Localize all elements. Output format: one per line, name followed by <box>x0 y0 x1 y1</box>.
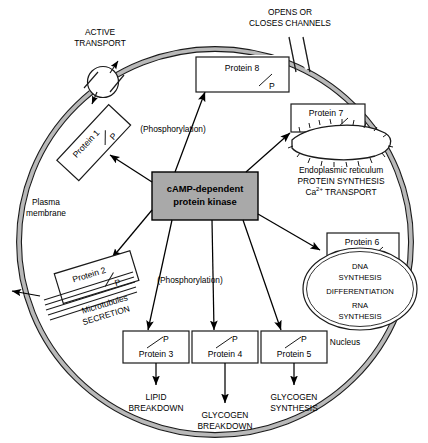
protein-3-box: Protein 3 P <box>123 331 189 363</box>
kinase-label-line1: cAMP-dependent <box>167 183 244 194</box>
protein-8-box: Protein 8 P <box>196 57 289 92</box>
nucleus-differentiation: DIFFERENTIATION <box>326 287 393 296</box>
protein-4-box: Protein 4 P <box>192 331 258 363</box>
protein-3-label: Protein 3 <box>139 349 174 359</box>
plasma-membrane-label: Plasma membrane <box>26 197 66 218</box>
er-line1: Endoplasmic reticulum <box>299 165 383 175</box>
protein-4-phosphate: P <box>232 334 238 344</box>
arrow-to-protein-2 <box>112 210 152 258</box>
plasma-membrane-line2: membrane <box>26 208 66 218</box>
nucleus-rna-line1: RNA <box>352 301 369 310</box>
er-line3: Ca2+ TRANSPORT <box>305 186 376 197</box>
er-calcium: Ca <box>305 187 316 197</box>
active-transport-label: ACTIVE TRANSPORT <box>74 27 126 48</box>
phosphorylation-label-upper: (Phosphorylation) <box>140 124 206 134</box>
arrow-to-protein-1 <box>110 155 152 182</box>
active-transport-line1: ACTIVE <box>85 27 116 37</box>
glycogen-breakdown-line1: GLYCOGEN <box>202 410 249 420</box>
active-transport-pump <box>84 61 124 104</box>
protein-7-label: Protein 7 <box>309 108 344 118</box>
protein-8-phosphate: P <box>269 81 275 91</box>
arrow-to-protein-7 <box>246 133 290 172</box>
nucleus: DNA SYNTHESIS DIFFERENTIATION RNA SYNTHE… <box>303 248 417 330</box>
diagram-canvas: ACTIVE TRANSPORT OPENS OR CLOSES CHANNEL… <box>0 0 428 443</box>
phosphorylation-label-lower: (Phosphorylation) <box>157 275 223 285</box>
glycogen-breakdown-label: GLYCOGEN BREAKDOWN <box>198 410 253 431</box>
nucleus-label: Nucleus <box>330 337 360 347</box>
plasma-membrane-line1: Plasma <box>32 197 60 207</box>
kinase-label-line2: protein kinase <box>173 196 237 207</box>
protein-5-label: Protein 5 <box>277 349 312 359</box>
protein-5-phosphate: P <box>301 334 307 344</box>
endoplasmic-reticulum-label: Endoplasmic reticulum PROTEIN SYNTHESIS … <box>297 165 384 197</box>
protein-4-label: Protein 4 <box>208 349 243 359</box>
active-transport-line2: TRANSPORT <box>74 38 126 48</box>
channels-label: OPENS OR CLOSES CHANNELS <box>249 7 331 28</box>
channels-line1: OPENS OR <box>268 7 312 17</box>
glycogen-synthesis-label: GLYCOGEN SYNTHESIS <box>270 392 318 413</box>
arrow-to-protein-6 <box>258 214 320 250</box>
arrow-to-protein-5 <box>243 220 281 330</box>
glycogen-breakdown-line2: BREAKDOWN <box>198 421 253 431</box>
lipid-breakdown-line1: LIPID <box>146 392 167 402</box>
protein-6-label: Protein 6 <box>345 237 380 247</box>
lipid-breakdown-label: LIPID BREAKDOWN <box>129 392 184 413</box>
camp-dependent-protein-kinase-box: cAMP-dependent protein kinase <box>152 172 258 220</box>
glycogen-synthesis-line1: GLYCOGEN <box>271 392 318 402</box>
protein-8-label: Protein 8 <box>225 63 260 73</box>
channels-line2: CLOSES CHANNELS <box>249 18 331 28</box>
er-line2: PROTEIN SYNTHESIS <box>297 176 384 186</box>
nucleus-dna-line1: DNA <box>352 262 369 271</box>
nucleus-dna-line2: SYNTHESIS <box>338 273 381 282</box>
lipid-breakdown-line2: BREAKDOWN <box>129 403 184 413</box>
nucleus-rna-line2: SYNTHESIS <box>338 312 381 321</box>
protein-5-box: Protein 5 P <box>261 331 327 363</box>
glycogen-synthesis-line2: SYNTHESIS <box>270 403 318 413</box>
er-transport: TRANSPORT <box>323 187 377 197</box>
protein-3-phosphate: P <box>163 334 169 344</box>
